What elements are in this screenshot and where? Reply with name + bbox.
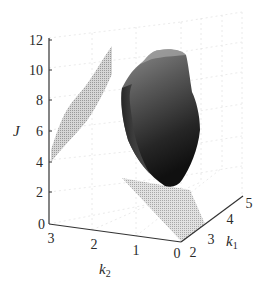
x-tick-2: 2 <box>91 237 98 252</box>
x-tick-1: 1 <box>133 243 140 258</box>
z-tick-8: 8 <box>36 93 43 108</box>
y-tick-3: 3 <box>208 232 215 247</box>
z-axis-label: J <box>13 123 21 139</box>
y-tick-2: 2 <box>190 245 197 260</box>
y-tick-4: 4 <box>227 212 234 227</box>
z-tick-0: 0 <box>38 217 45 232</box>
z-tick-6: 6 <box>36 124 43 139</box>
surface-plot: 12 10 8 6 4 2 0 J 3 2 1 0 k2 2 3 4 5 k1 <box>0 0 264 288</box>
x-tick-0: 0 <box>174 246 181 261</box>
x-axis-label: k2 <box>99 261 111 279</box>
y-axis-label: k1 <box>226 233 238 251</box>
z-tick-2: 2 <box>36 185 43 200</box>
surface <box>121 49 200 187</box>
y-tick-5: 5 <box>246 196 253 211</box>
projection-k1-k2 <box>122 178 205 242</box>
z-tick-10: 10 <box>29 63 43 78</box>
z-tick-4: 4 <box>36 155 43 170</box>
projection-k2-J <box>51 46 112 162</box>
x-tick-3: 3 <box>48 231 55 246</box>
z-tick-12: 12 <box>29 33 43 48</box>
